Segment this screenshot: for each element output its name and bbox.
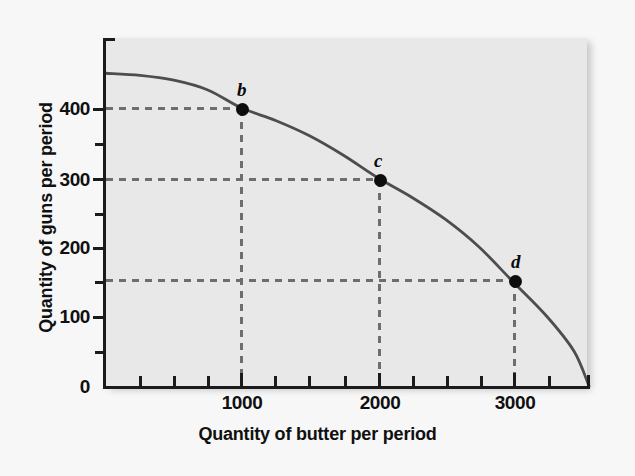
x-tick-2000 xyxy=(378,373,381,387)
y-tick-400 xyxy=(93,108,106,111)
y-tick-350 xyxy=(95,143,106,146)
guide-line-guns-300 xyxy=(106,178,380,181)
data-point-c xyxy=(374,174,387,187)
x-tick-2750 xyxy=(480,376,483,387)
x-tick-3250 xyxy=(548,376,551,387)
data-point-label-d: d xyxy=(511,251,521,273)
data-point-b xyxy=(236,103,249,116)
y-tick-100 xyxy=(93,316,106,319)
guide-line-butter-2000 xyxy=(378,180,381,386)
x-tick-500 xyxy=(173,376,176,387)
guide-line-guns-400 xyxy=(106,107,242,110)
y-tick-200 xyxy=(93,247,106,250)
y-tick-150 xyxy=(95,281,106,284)
y-axis-title: Quantity of guns per period xyxy=(36,63,57,373)
guide-line-guns-150 xyxy=(106,279,515,282)
y-tick-label-0: 0 xyxy=(44,376,90,398)
guide-line-butter-1000 xyxy=(240,109,243,386)
x-tick-1000 xyxy=(240,373,243,387)
x-tick-label-1000: 1000 xyxy=(197,392,287,414)
x-tick-1250 xyxy=(274,376,277,387)
x-axis-right-cap xyxy=(587,375,590,389)
ppf-chart-figure: 400 300 200 100 0 1000 2000 3000 b c d Q… xyxy=(0,0,635,476)
x-tick-250 xyxy=(139,376,142,387)
x-tick-750 xyxy=(207,376,210,387)
data-point-label-c: c xyxy=(374,150,382,172)
x-axis-title: Quantity of butter per period xyxy=(0,424,635,445)
x-tick-2500 xyxy=(446,376,449,387)
x-tick-1750 xyxy=(344,376,347,387)
data-point-d xyxy=(509,275,522,288)
y-axis-top-cap xyxy=(103,38,115,41)
y-tick-250 xyxy=(95,213,106,216)
data-point-label-b: b xyxy=(237,79,247,101)
x-tick-label-3000: 3000 xyxy=(470,392,560,414)
y-tick-50 xyxy=(95,351,106,354)
x-tick-3000 xyxy=(513,373,516,387)
x-tick-2250 xyxy=(412,376,415,387)
guide-line-butter-3000 xyxy=(513,281,516,386)
x-tick-1500 xyxy=(308,376,311,387)
y-tick-300 xyxy=(93,178,106,181)
x-tick-label-2000: 2000 xyxy=(335,392,425,414)
